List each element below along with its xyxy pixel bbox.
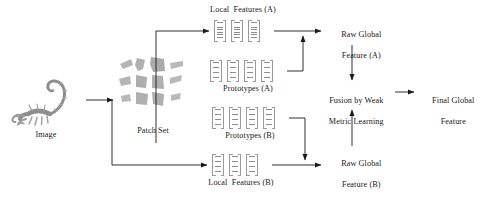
raw-global-a-line1: Raw Global [341, 30, 381, 39]
raw-global-b-line1: Raw Global [341, 159, 381, 168]
raw-global-a-line2: Feature (A) [342, 51, 381, 60]
final-global-line1: Final Global [432, 96, 474, 105]
feature-vector-glyph [248, 20, 260, 40]
local-features-a-label: Local Features (A) [191, 5, 295, 16]
fusion-node: Fusion by Weak Metric Learning [310, 85, 394, 139]
patch-set-grid [118, 56, 186, 122]
feature-vector-glyph [246, 154, 258, 174]
prototypes-a-group [210, 60, 285, 82]
feature-vector-glyph [263, 107, 275, 127]
prototypes-a-label: Prototypes (A) [203, 84, 293, 95]
local-features-a-group [214, 20, 272, 42]
feature-vector-glyph [214, 20, 226, 40]
edge-prototypes-a-to-rawglobal-a [287, 36, 303, 71]
feature-vector-glyph [212, 107, 224, 127]
raw-global-feature-b-node: Raw Global Feature (B) [326, 148, 388, 202]
local-features-b-group [212, 154, 270, 176]
feature-vector-glyph [246, 107, 258, 127]
prototypes-b-label: Prototypes (B) [205, 131, 295, 142]
prototypes-b-group [212, 107, 287, 129]
feature-vector-glyph [229, 154, 241, 174]
patch-set-label: Patch Set [122, 126, 184, 137]
raw-global-b-line2: Feature (B) [342, 180, 381, 189]
source-image-scorpion [10, 74, 82, 126]
fusion-line2: Metric Learning [329, 117, 384, 126]
figure-canvas: Image Patch Set [0, 0, 485, 204]
feature-vector-glyph [227, 60, 239, 80]
final-global-feature-node: Final Global Feature [417, 85, 481, 139]
feature-vector-glyph [212, 154, 224, 174]
feature-vector-glyph [244, 60, 256, 80]
fusion-line1: Fusion by Weak [329, 96, 383, 105]
feature-vector-glyph [261, 60, 273, 80]
image-label: Image [18, 130, 74, 141]
local-features-b-label: Local Features (B) [189, 178, 293, 189]
feature-vector-glyph [229, 107, 241, 127]
feature-vector-glyph [231, 20, 243, 40]
raw-global-feature-a-node: Raw Global Feature (A) [326, 19, 388, 73]
feature-vector-glyph [210, 60, 222, 80]
final-global-line2: Feature [441, 117, 466, 126]
